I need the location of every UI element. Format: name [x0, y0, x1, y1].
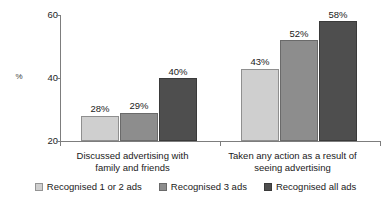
legend-label: Recognised all ads	[276, 181, 356, 192]
x-tickmark-middle	[220, 141, 221, 146]
bar-g2-recognised-3-ads[interactable]	[280, 40, 318, 141]
bar-value-g2-s2: 58%	[315, 9, 361, 20]
legend-item-recognised-all-ads[interactable]: Recognised all ads	[264, 181, 356, 192]
x-tickmark-end	[380, 141, 381, 146]
legend-label: Recognised 3 ads	[171, 181, 247, 192]
bar-g1-recognised-3-ads[interactable]	[120, 113, 158, 141]
legend: Recognised 1 or 2 ads Recognised 3 ads R…	[0, 181, 391, 192]
x-tickmark-start	[60, 141, 61, 146]
x-category-label-discussed-advertising: Discussed advertising with family and fr…	[55, 150, 210, 173]
bar-g1-recognised-all-ads[interactable]	[159, 78, 197, 141]
bar-group-taken-any-action: 43% 52% 58%	[227, 15, 367, 141]
x-category-label-line2: family and friends	[55, 162, 210, 174]
legend-swatch-icon	[35, 183, 43, 191]
x-category-label-taken-any-action: Taken any action as a result of seeing a…	[215, 150, 370, 173]
bar-chart: % 60 40 20 28% 29% 40% 43% 52%	[0, 0, 391, 202]
x-category-label-line1: Taken any action as a result of	[215, 150, 370, 162]
legend-swatch-icon	[159, 183, 167, 191]
bar-g1-recognised-1-or-2-ads[interactable]	[81, 116, 119, 141]
y-axis-ticks: 60 40 20	[0, 0, 58, 202]
legend-item-recognised-1-or-2-ads[interactable]: Recognised 1 or 2 ads	[35, 181, 142, 192]
y-tick-40: 40	[30, 73, 58, 83]
bar-value-g1-s2: 40%	[155, 66, 201, 77]
bar-g2-recognised-all-ads[interactable]	[319, 21, 357, 141]
plot-area: 28% 29% 40% 43% 52% 58%	[61, 15, 380, 141]
legend-label: Recognised 1 or 2 ads	[47, 181, 142, 192]
bar-g2-recognised-1-or-2-ads[interactable]	[241, 69, 279, 141]
bar-value-g1-s1: 29%	[116, 100, 162, 111]
x-category-label-line2: seeing advertising	[215, 162, 370, 174]
y-tick-60: 60	[30, 10, 58, 20]
legend-item-recognised-3-ads[interactable]: Recognised 3 ads	[159, 181, 247, 192]
legend-swatch-icon	[264, 183, 272, 191]
bar-value-g2-s1: 52%	[276, 28, 322, 39]
bar-group-discussed-advertising: 28% 29% 40%	[67, 15, 207, 141]
x-category-label-line1: Discussed advertising with	[55, 150, 210, 162]
bar-value-g2-s0: 43%	[237, 56, 283, 67]
y-tick-20: 20	[30, 136, 58, 146]
